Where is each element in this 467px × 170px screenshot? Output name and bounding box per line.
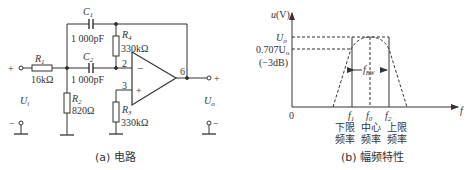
input-minus-sign: − xyxy=(9,118,15,129)
r2-value: 820Ω xyxy=(72,105,94,116)
x-axis-label: f xyxy=(460,105,464,116)
c1-value: 1 000pF xyxy=(71,33,105,44)
pin-2-label: 2 xyxy=(122,58,127,69)
c2-name: C2 xyxy=(83,51,94,64)
r3-name: R3 xyxy=(121,104,132,117)
pin-3-label: 3 xyxy=(122,80,127,91)
f2-desc-line1: 上限 xyxy=(387,122,407,133)
minus-3db-label: (−3dB) xyxy=(259,57,288,69)
pin-6-label: 6 xyxy=(180,66,185,77)
figure: + − Ui R1 16kΩ C1 1 000pF C2 1 000pF R4 … xyxy=(0,0,467,170)
resistor-r3 xyxy=(113,102,119,122)
resistor-r4 xyxy=(113,36,119,56)
r3-value: 330kΩ xyxy=(121,117,148,128)
r1-name: R1 xyxy=(34,53,45,66)
opamp-minus-sign: − xyxy=(137,62,143,74)
input-plus-sign: + xyxy=(8,63,14,74)
input-terminal-minus xyxy=(19,121,23,125)
f2-desc-line2: 频率 xyxy=(387,133,407,145)
f1-desc-line1: 下限 xyxy=(335,122,355,133)
opamp-triangle xyxy=(132,52,176,105)
output-terminal-plus xyxy=(207,76,211,80)
f1-desc-line2: 频率 xyxy=(335,133,355,145)
opamp-plus-sign: + xyxy=(136,85,142,96)
origin-label: 0 xyxy=(289,110,294,121)
r4-value: 330kΩ xyxy=(121,43,148,54)
y-axis-label: u(V) xyxy=(271,9,290,21)
output-terminal-minus xyxy=(207,121,211,125)
r1-value: 16kΩ xyxy=(31,74,53,85)
input-terminal-plus xyxy=(19,66,23,70)
bandwidth-label: fBW xyxy=(363,64,375,76)
resistor-r2 xyxy=(64,93,70,113)
707-level-label: 0.707Uo xyxy=(256,44,290,57)
f0-desc-line1: 中心 xyxy=(361,121,381,133)
chart-caption: (b) 幅频特性 xyxy=(341,150,404,164)
r4-name: R4 xyxy=(121,29,132,42)
f0-desc-line2: 频率 xyxy=(361,133,381,145)
output-plus-sign: + xyxy=(214,73,220,84)
circuit-caption: (a) 电路 xyxy=(95,151,136,164)
c2-value: 1 000pF xyxy=(71,74,105,85)
output-minus-sign: − xyxy=(213,118,219,129)
input-voltage-label: Ui xyxy=(20,95,29,108)
output-voltage-label: Uo xyxy=(204,95,215,108)
c1-name: C1 xyxy=(83,6,93,19)
frequency-response-chart xyxy=(292,13,458,107)
